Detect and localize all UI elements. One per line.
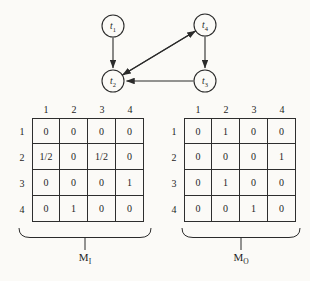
matrix-cell: 0: [184, 118, 212, 144]
matrix-cell: 0: [88, 118, 116, 144]
output-matrix: 1 2 3 4 1 0 1 0 0 2 0 0 0 1 3 0 1 0 0 4 …: [164, 100, 296, 222]
col-header: 4: [268, 100, 296, 118]
matrix-cell: 0: [116, 196, 144, 222]
matrix-cell: 0: [268, 118, 296, 144]
matrix-cell: 1/2: [32, 144, 60, 170]
matrix-cell: 1: [60, 196, 88, 222]
matrix-cell: 0: [212, 144, 240, 170]
node-t3-label: t3: [191, 74, 219, 92]
row-header: 1: [164, 118, 184, 144]
row-header: 3: [164, 170, 184, 196]
matrix-cell: 0: [184, 170, 212, 196]
node-t2-label: t2: [99, 74, 127, 92]
matrix-cell: 0: [60, 144, 88, 170]
row-header: 4: [12, 196, 32, 222]
input-matrix-label: MI: [68, 251, 102, 266]
matrix-cell: 1: [240, 196, 268, 222]
matrix-cell: 0: [268, 196, 296, 222]
matrix-cell: 0: [240, 144, 268, 170]
col-header: 2: [212, 100, 240, 118]
matrix-cell: 0: [60, 170, 88, 196]
col-header: 2: [60, 100, 88, 118]
col-header: 1: [32, 100, 60, 118]
col-header: 4: [116, 100, 144, 118]
task-graph: [0, 0, 310, 105]
matrix-cell: 0: [88, 196, 116, 222]
matrix-cell: 1/2: [88, 144, 116, 170]
row-header: 3: [12, 170, 32, 196]
figure-task-graph-and-matrices: t1 t4 t2 t3 1 2 3 4 1 0 0 0 0 2 1/2 0 1/…: [0, 0, 310, 281]
col-header: 3: [240, 100, 268, 118]
output-matrix-subscript: O: [243, 257, 248, 266]
matrix-cell: 0: [240, 170, 268, 196]
row-header: 4: [164, 196, 184, 222]
node-t1-label: t1: [99, 19, 127, 37]
matrix-cell: 0: [32, 118, 60, 144]
output-matrix-grid: 1 2 3 4 1 0 1 0 0 2 0 0 0 1 3 0 1 0 0 4 …: [164, 100, 296, 222]
matrix-cell: 0: [88, 170, 116, 196]
matrix-cell: 1: [212, 170, 240, 196]
node-t2-sub: 2: [113, 81, 116, 88]
matrix-cell: 0: [116, 118, 144, 144]
output-matrix-label: MO: [224, 251, 258, 266]
input-matrix-brace: [18, 227, 152, 253]
output-matrix-name: M: [233, 251, 243, 263]
matrix-cell: 1: [268, 144, 296, 170]
matrix-cell: 0: [60, 118, 88, 144]
input-matrix-subscript: I: [89, 257, 92, 266]
input-matrix-grid: 1 2 3 4 1 0 0 0 0 2 1/2 0 1/2 0 3 0 0 0 …: [12, 100, 144, 222]
matrix-cell: 0: [32, 170, 60, 196]
corner-spacer: [12, 100, 32, 118]
matrix-cell: 0: [184, 144, 212, 170]
matrix-cell: 0: [116, 144, 144, 170]
matrix-cell: 1: [116, 170, 144, 196]
row-header: 2: [164, 144, 184, 170]
matrix-cell: 0: [268, 170, 296, 196]
matrix-cell: 1: [212, 118, 240, 144]
matrix-cell: 0: [240, 118, 268, 144]
input-matrix-name: M: [79, 251, 89, 263]
node-t1-sub: 1: [113, 26, 116, 33]
node-t4-sub: 4: [205, 25, 208, 32]
col-header: 1: [184, 100, 212, 118]
node-t4-label: t4: [191, 18, 219, 36]
row-header: 2: [12, 144, 32, 170]
input-matrix: 1 2 3 4 1 0 0 0 0 2 1/2 0 1/2 0 3 0 0 0 …: [12, 100, 144, 222]
node-t3-sub: 3: [205, 81, 208, 88]
matrix-cell: 0: [184, 196, 212, 222]
edge-t4-to-t2: [123, 31, 196, 75]
col-header: 3: [88, 100, 116, 118]
row-header: 1: [12, 118, 32, 144]
corner-spacer: [164, 100, 184, 118]
output-matrix-brace: [181, 227, 301, 253]
matrix-cell: 0: [212, 196, 240, 222]
matrix-cell: 0: [32, 196, 60, 222]
